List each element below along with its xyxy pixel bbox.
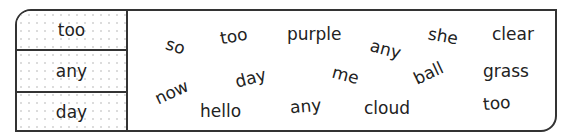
target-word-cell: too: [17, 11, 126, 51]
target-word-cell: any: [17, 51, 126, 93]
target-word: too: [58, 20, 85, 40]
target-word: day: [56, 102, 87, 122]
cloud-word[interactable]: too: [482, 92, 511, 114]
target-word: any: [56, 61, 87, 81]
target-word-cell: day: [17, 93, 126, 130]
worksheet-frame: too any day: [15, 9, 557, 132]
cloud-word[interactable]: clear: [492, 24, 534, 44]
cloud-word[interactable]: any: [289, 95, 322, 118]
cloud-word[interactable]: hello: [200, 101, 241, 121]
cloud-word[interactable]: purple: [287, 24, 342, 44]
target-word-column: too any day: [17, 11, 128, 130]
cloud-word[interactable]: cloud: [364, 98, 410, 118]
cloud-word[interactable]: grass: [483, 61, 529, 81]
